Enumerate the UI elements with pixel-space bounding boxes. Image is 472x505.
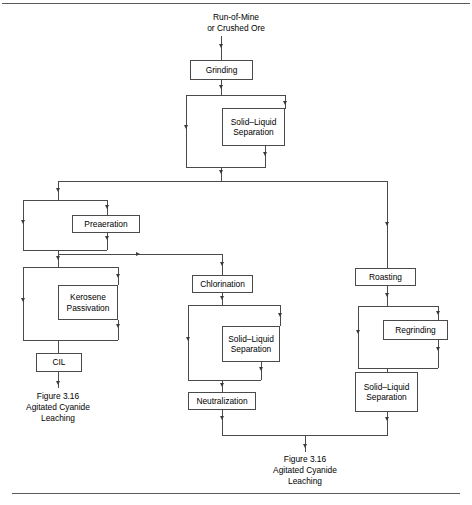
arrowhead-cil-out bbox=[56, 381, 60, 385]
bypass-top-sls-left bbox=[186, 95, 187, 167]
top-rule bbox=[2, 3, 470, 4]
flowsheet-figure: Run-of-Mine or Crushed Ore Grinding Soli… bbox=[0, 0, 472, 505]
bypass-kerosene-merge bbox=[23, 340, 118, 341]
node-neutralization: Neutralization bbox=[188, 392, 256, 410]
arrowhead-branch-right bbox=[385, 222, 389, 226]
terminal-center-label: Figure 3.16 Agitated Cyanide Leaching bbox=[255, 454, 355, 487]
arrowhead-top-sls-in bbox=[283, 101, 287, 105]
bypass-chlor-sls-merge bbox=[188, 380, 261, 381]
edge-kerosene-out bbox=[118, 320, 119, 340]
arrowhead-branch-left bbox=[56, 188, 60, 192]
arrowhead-bypass-top-sls bbox=[184, 125, 188, 129]
edge-input-grinding bbox=[221, 36, 222, 60]
bypass-top-sls-merge bbox=[186, 167, 266, 168]
node-chlorination: Chlorination bbox=[192, 275, 253, 293]
arrowhead-chlor-sls-in bbox=[278, 313, 282, 317]
arrowhead-bypass-regrinding bbox=[356, 330, 360, 334]
bypass-kerosene-left bbox=[23, 267, 24, 340]
arrowhead-kerosene-in bbox=[116, 274, 120, 278]
arrowhead-top-sls-to-branch bbox=[219, 170, 223, 174]
arrowhead-preaeration-to-chlorination bbox=[136, 252, 140, 256]
terminal-left-label: Figure 3.16 Agitated Cyanide Leaching bbox=[8, 391, 108, 424]
arrowhead-preaeration-out bbox=[105, 236, 109, 240]
arrowhead-bypass-chlor-sls bbox=[186, 337, 190, 341]
bypass-chlor-sls-left bbox=[188, 305, 189, 380]
node-preaeration: Preaeration bbox=[72, 215, 140, 233]
arrowhead-bypass-preaeration bbox=[21, 220, 25, 224]
bypass-top-sls-split bbox=[186, 95, 286, 96]
arrowhead-grinding-down bbox=[219, 85, 223, 89]
edge-cil-out bbox=[58, 372, 59, 388]
arrowhead-bypass-kerosene bbox=[21, 298, 25, 302]
arrowhead-preaeration-to-kerosene bbox=[56, 256, 60, 260]
node-solid-liquid-separation-top: Solid–Liquid Separation bbox=[222, 108, 285, 146]
bypass-regrinding-left bbox=[358, 306, 359, 368]
bypass-kerosene-split bbox=[23, 267, 118, 268]
bypass-regrinding-split bbox=[358, 306, 438, 307]
bottom-rule bbox=[12, 493, 460, 494]
bypass-preaeration-split bbox=[23, 200, 107, 201]
arrowhead-to-neutralization bbox=[220, 383, 224, 387]
arrowhead-regrinding-in bbox=[436, 311, 440, 315]
edge-neutralization-out bbox=[222, 410, 223, 435]
node-kerosene-passivation: Kerosene Passivation bbox=[58, 285, 118, 320]
arrowhead-top-sls-out bbox=[263, 152, 267, 156]
arrowhead-preaeration-in bbox=[105, 205, 109, 209]
arrowhead-neutralization-out bbox=[220, 416, 224, 420]
arrowhead-kerosene-out bbox=[116, 324, 120, 328]
arrowhead-chlorination-out bbox=[220, 296, 224, 300]
bypass-preaeration-merge bbox=[23, 250, 107, 251]
arrowhead-bottom-merge-down bbox=[303, 444, 307, 448]
edge-kerosene-to-cil bbox=[58, 340, 59, 353]
node-grinding: Grinding bbox=[190, 60, 253, 80]
bypass-preaeration-left bbox=[23, 200, 24, 250]
input-label: Run-of-Mine or Crushed Ore bbox=[181, 12, 291, 34]
node-regrinding: Regrinding bbox=[383, 320, 448, 340]
edge-chlor-sls-out bbox=[261, 362, 262, 380]
node-cil: CIL bbox=[36, 353, 82, 372]
node-solid-liquid-separation-roasting: Solid–Liquid Separation bbox=[355, 372, 418, 412]
arrowhead-roast-sls-out bbox=[385, 417, 389, 421]
bypass-regrinding-merge bbox=[358, 368, 438, 369]
edge-preaeration-to-chlorination bbox=[58, 254, 222, 255]
node-solid-liquid-separation-chlorination: Solid–Liquid Separation bbox=[222, 326, 280, 362]
edge-roast-sls-out bbox=[387, 412, 388, 435]
arrowhead-regrinding-out bbox=[436, 347, 440, 351]
edge-top-sls-out bbox=[265, 146, 266, 167]
arrowhead-input-grinding bbox=[219, 44, 223, 48]
arrowhead-chlor-sls-out bbox=[259, 367, 263, 371]
node-roasting: Roasting bbox=[355, 268, 416, 286]
bypass-chlor-sls-split bbox=[188, 305, 280, 306]
edge-regrinding-out bbox=[438, 340, 439, 368]
arrowhead-chlorination-in bbox=[220, 262, 224, 266]
main-distribution-bar bbox=[58, 181, 388, 182]
arrowhead-roasting-out bbox=[385, 293, 389, 297]
